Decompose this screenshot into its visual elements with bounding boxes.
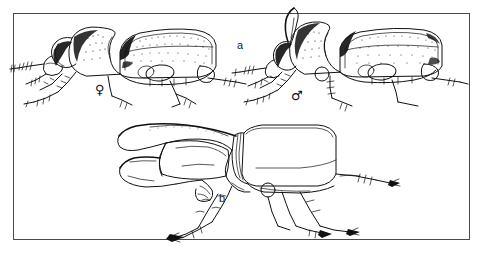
beetle-illustration-artwork (0, 0, 491, 253)
male-sex-symbol: ♂ (291, 89, 303, 102)
figure-plate: a b ♀ ♂ (0, 0, 491, 253)
female-sex-symbol: ♀ (95, 83, 105, 96)
hercules-beetle-drawing (118, 124, 400, 242)
panel-label-b: b (219, 193, 225, 204)
female-beetle-drawing (10, 27, 246, 109)
panel-label-a: a (237, 40, 243, 51)
male-beetle-drawing (232, 8, 468, 111)
